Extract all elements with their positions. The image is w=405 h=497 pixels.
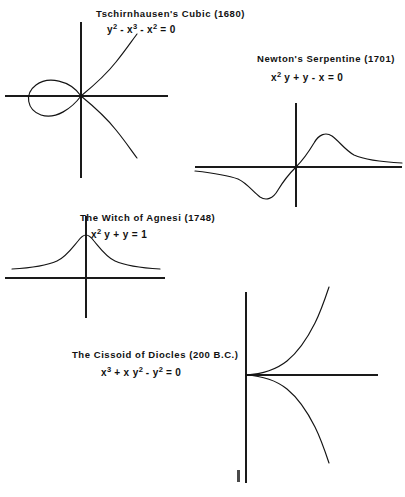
eq-term: + x y xyxy=(114,367,139,378)
cissoid-lower-branch-curve xyxy=(246,375,329,463)
cissoid-of-diocles-equation: x3+ x y2- y2= 0 xyxy=(101,367,181,378)
eq-term: = 0 xyxy=(166,367,181,378)
tschirnhausen-cubic-plot xyxy=(0,0,200,200)
eq-term: y + y - x = 0 xyxy=(284,72,343,83)
newtons-serpentine-equation: x2y + y - x = 0 xyxy=(271,72,343,83)
cissoid-upper-branch-curve xyxy=(246,287,329,375)
cubic-upper-branch-curve xyxy=(81,34,137,96)
witch-of-agnesi-svg xyxy=(0,212,200,327)
scan-artifact-mark xyxy=(237,470,240,482)
cissoid-of-diocles-caption: The Cissoid of Diocles (200 B.C.) xyxy=(72,349,239,360)
eq-exponent: 3 xyxy=(107,365,111,374)
newtons-serpentine-plot xyxy=(193,95,405,210)
eq-exponent: 2 xyxy=(159,365,163,374)
newtons-serpentine-svg xyxy=(193,95,405,210)
cissoid-of-diocles-svg xyxy=(225,285,405,490)
cissoid-of-diocles-plot xyxy=(225,285,405,490)
cubic-loop-curve xyxy=(29,80,81,116)
tschirnhausen-cubic-svg xyxy=(0,0,200,200)
eq-exponent: 2 xyxy=(139,365,143,374)
witch-of-agnesi-plot xyxy=(0,212,200,327)
curves-page: Tschirnhausen's Cubic (1680) y2- x3- x2=… xyxy=(0,0,405,497)
cubic-lower-branch-curve xyxy=(81,96,137,158)
eq-term: - y xyxy=(146,367,159,378)
eq-exponent: 2 xyxy=(277,70,281,79)
newtons-serpentine-caption: Newton's Serpentine (1701) xyxy=(257,53,395,64)
